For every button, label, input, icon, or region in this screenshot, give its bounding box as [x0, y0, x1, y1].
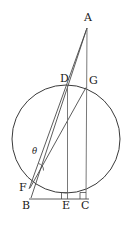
segment-a-b: [31, 28, 87, 198]
angle-label-theta: θ: [32, 147, 37, 156]
geometry-canvas: [0, 0, 132, 229]
vertex-label-c: C: [81, 200, 89, 211]
segment-f-g: [30, 88, 86, 189]
vertex-label-a: A: [84, 12, 92, 23]
vertex-label-f: F: [19, 182, 27, 193]
segment-a-c: [86, 28, 87, 199]
main-circle: [12, 85, 120, 193]
segment-a-f: [29, 28, 87, 189]
vertex-label-g: G: [89, 75, 98, 86]
vertex-label-e: E: [62, 200, 70, 211]
geometry-diagram: A D G F B E C θ: [0, 0, 132, 229]
vertex-label-b: B: [22, 200, 30, 211]
vertex-label-d: D: [60, 73, 69, 84]
